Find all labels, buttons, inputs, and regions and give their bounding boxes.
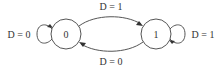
label-edge-0-to-1: D = 1	[100, 1, 123, 12]
edge-0-to-1	[79, 17, 141, 26]
label-self-loop-1: D = 1	[192, 29, 215, 40]
label-self-loop-0: D = 0	[8, 29, 31, 40]
edge-1-to-0	[81, 42, 143, 51]
state-label-0: 0	[64, 29, 69, 40]
self-loop-1	[170, 25, 185, 43]
state-diagram: 0 1 D = 0 D = 1 D = 0 D = 1	[0, 0, 224, 70]
label-edge-1-to-0: D = 0	[100, 56, 123, 67]
self-loop-0	[37, 25, 52, 43]
state-node-1: 1	[141, 19, 171, 49]
state-node-0: 0	[51, 19, 81, 49]
state-label-1: 1	[154, 29, 159, 40]
